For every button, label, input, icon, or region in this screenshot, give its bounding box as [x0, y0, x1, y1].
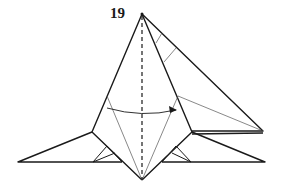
right-flap [142, 14, 263, 131]
origami-diagram [0, 0, 282, 185]
